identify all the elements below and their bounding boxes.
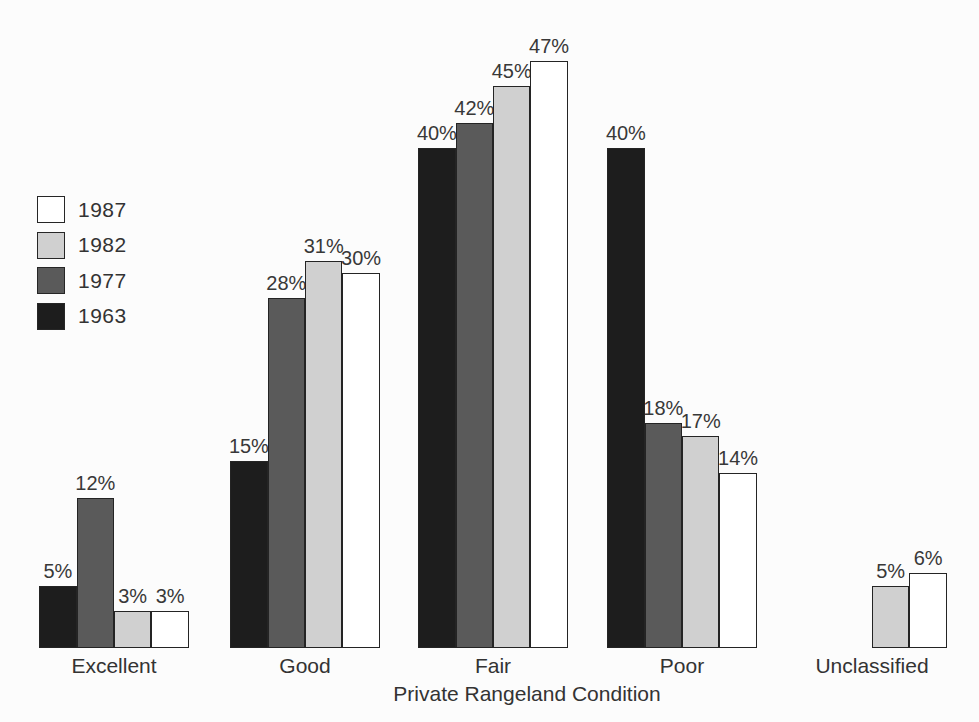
legend-label: 1987 [78, 198, 127, 222]
category-label-poor: Poor [592, 654, 772, 678]
legend-label: 1982 [78, 233, 127, 257]
category-label-excellent: Excellent [24, 654, 204, 678]
bar-1977-poor [645, 423, 682, 648]
bar-value-label-1987-poor: 14% [696, 446, 780, 470]
legend-label: 1977 [78, 269, 127, 293]
bar-1977-good [268, 298, 305, 648]
bar-1982-good [305, 261, 342, 649]
bar-value-label-1987-excellent: 3% [128, 584, 212, 608]
bar-1987-poor [719, 473, 756, 648]
legend-swatch-1987 [37, 196, 65, 223]
legend-label: 1963 [78, 304, 127, 328]
bar-value-label-1987-fair: 47% [507, 34, 591, 58]
bar-1987-fair [530, 61, 567, 649]
x-axis-title: Private Rangeland Condition [393, 682, 660, 706]
bar-value-label-1987-good: 30% [319, 246, 403, 270]
bar-1982-unclassified [872, 586, 909, 649]
category-label-fair: Fair [403, 654, 583, 678]
bar-1982-excellent [114, 611, 151, 649]
legend-swatch-1977 [37, 267, 65, 294]
bar-value-label-1963-poor: 40% [584, 121, 668, 145]
category-label-unclassified: Unclassified [782, 654, 962, 678]
legend-swatch-1963 [37, 303, 65, 330]
bar-1963-good [230, 461, 267, 649]
bar-1987-unclassified [909, 573, 946, 648]
bar-1963-excellent [39, 586, 76, 649]
bar-1977-fair [456, 123, 493, 648]
bar-value-label-1982-poor: 17% [659, 409, 743, 433]
category-label-good: Good [215, 654, 395, 678]
chart-legend: 1987198219771963 [37, 196, 127, 338]
legend-swatch-1982 [37, 232, 65, 259]
chart-canvas: 1987198219771963 5%12%3%3%Excellent15%28… [0, 0, 979, 722]
legend-item-1987: 1987 [37, 196, 127, 223]
bar-value-label-1987-unclassified: 6% [886, 546, 970, 570]
bar-1987-good [342, 273, 379, 648]
legend-item-1977: 1977 [37, 267, 127, 294]
bar-1987-excellent [151, 611, 188, 649]
legend-item-1963: 1963 [37, 303, 127, 330]
bar-1982-fair [493, 86, 530, 649]
legend-item-1982: 1982 [37, 232, 127, 259]
bar-value-label-1977-excellent: 12% [53, 471, 137, 495]
bar-1963-fair [418, 148, 455, 648]
bar-1977-excellent [77, 498, 114, 648]
